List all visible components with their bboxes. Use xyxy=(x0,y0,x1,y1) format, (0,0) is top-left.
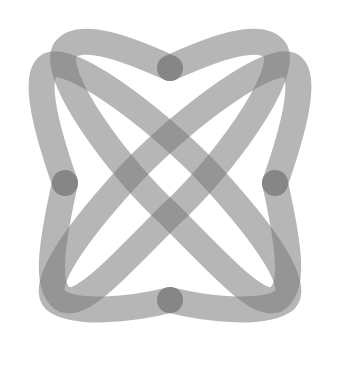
node-top-icon xyxy=(157,55,183,81)
knot-logo-icon xyxy=(0,0,338,377)
node-right-icon xyxy=(262,170,288,196)
node-left-icon xyxy=(52,170,78,196)
node-bottom-icon xyxy=(157,287,183,313)
